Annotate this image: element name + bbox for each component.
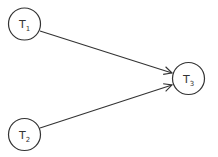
node-t3-subscript: 3 (190, 80, 194, 88)
node-t2-subscript: 2 (26, 136, 30, 144)
edge-t1-t3 (40, 31, 172, 73)
edge-t2-t3 (40, 85, 172, 128)
dependency-diagram: T1 T2 T3 (0, 0, 218, 157)
node-t3: T3 (173, 63, 205, 95)
node-t1-subscript: 1 (26, 25, 30, 33)
node-t2: T2 (9, 119, 41, 151)
node-t1: T1 (9, 8, 41, 40)
